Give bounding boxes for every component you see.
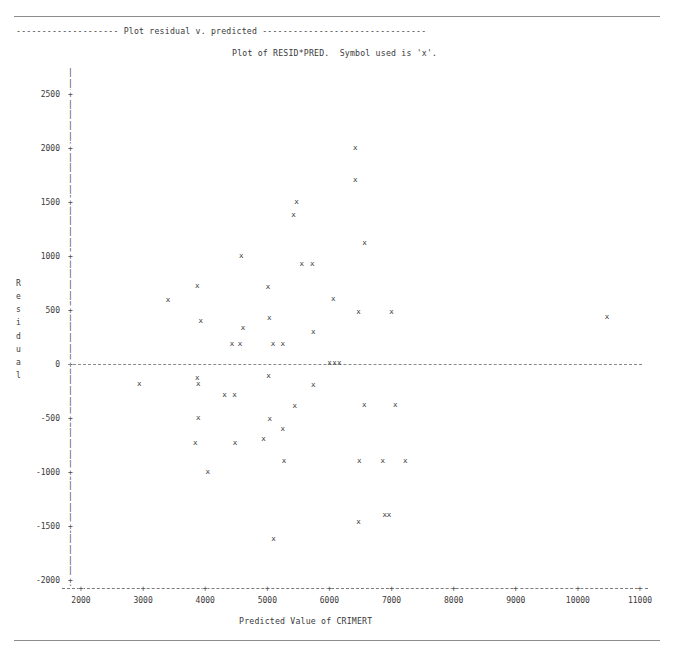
data-point-marker: x xyxy=(389,308,394,316)
y-axis-spine-segment: | xyxy=(68,99,73,108)
data-point-marker: x xyxy=(605,314,610,322)
x-tick-mark: + xyxy=(451,584,456,593)
x-tick-mark: + xyxy=(389,584,394,593)
y-axis-title-letter: u xyxy=(16,344,21,353)
y-tick-mark: + xyxy=(68,143,73,152)
data-point-marker: x xyxy=(137,381,142,389)
data-point-marker: x xyxy=(266,283,271,291)
x-tick-mark: + xyxy=(638,584,643,593)
x-tick-label: 11000 xyxy=(628,596,652,605)
x-tick-label: 10000 xyxy=(566,596,590,605)
data-point-marker: x xyxy=(241,324,246,332)
data-point-marker: x xyxy=(294,198,299,206)
y-axis-spine-segment: | xyxy=(68,481,73,490)
y-tick-label: 2000 xyxy=(14,143,60,152)
data-point-marker: x xyxy=(195,282,200,290)
x-tick-mark: + xyxy=(141,584,146,593)
y-axis-spine-segment: | xyxy=(68,333,73,342)
data-point-marker: x xyxy=(310,261,315,269)
x-tick-label: 9000 xyxy=(506,596,525,605)
data-point-marker: x xyxy=(300,261,305,269)
data-point-marker: x xyxy=(166,296,171,304)
y-axis-title-letter: s xyxy=(16,305,21,314)
data-point-marker: x xyxy=(291,211,296,219)
data-point-marker: x xyxy=(271,535,276,543)
data-point-marker: x xyxy=(233,439,238,447)
y-tick-mark: + xyxy=(68,521,73,530)
data-point-marker: x xyxy=(222,391,227,399)
x-axis-rule xyxy=(62,588,648,589)
y-axis-spine-segment: | xyxy=(68,216,73,225)
data-point-marker: x xyxy=(403,457,408,465)
data-point-marker: x xyxy=(232,391,237,399)
y-axis-spine-segment: | xyxy=(68,110,73,119)
x-tick-label: 5000 xyxy=(258,596,277,605)
data-point-marker: x xyxy=(393,401,398,409)
data-point-marker: x xyxy=(281,341,286,349)
y-tick-mark: + xyxy=(68,305,73,314)
data-point-marker: x xyxy=(261,436,266,444)
x-tick-label: 7000 xyxy=(382,596,401,605)
data-point-marker: x xyxy=(230,341,235,349)
y-axis-title-letter: i xyxy=(16,318,21,327)
data-point-marker: x xyxy=(281,425,286,433)
data-point-marker: x xyxy=(327,359,332,367)
data-point-marker: x xyxy=(266,372,271,380)
data-point-marker: x xyxy=(267,315,272,323)
y-axis-spine-segment: | xyxy=(68,502,73,511)
y-tick-mark: + xyxy=(68,576,73,585)
y-axis-spine-segment: | xyxy=(68,184,73,193)
y-tick-label: -1000 xyxy=(14,467,60,476)
x-tick-label: 2000 xyxy=(71,596,90,605)
y-tick-mark: + xyxy=(68,251,73,260)
y-tick-label: -500 xyxy=(14,413,60,422)
zero-reference-line xyxy=(68,364,642,365)
data-point-marker: x xyxy=(362,401,367,409)
y-tick-label: -1500 xyxy=(14,521,60,530)
y-axis-spine-segment: | xyxy=(68,205,73,214)
data-point-marker: x xyxy=(238,341,243,349)
y-axis-spine-segment: | xyxy=(68,68,73,77)
y-axis-spine-segment: | xyxy=(68,78,73,87)
x-tick-mark: + xyxy=(265,584,270,593)
y-axis-spine-segment: | xyxy=(68,121,73,130)
y-axis-spine-segment: | xyxy=(68,545,73,554)
data-point-marker: x xyxy=(193,439,198,447)
data-point-marker: x xyxy=(311,329,316,337)
data-point-marker: x xyxy=(332,359,337,367)
x-tick-mark: + xyxy=(203,584,208,593)
y-axis-title-letter: d xyxy=(16,331,21,340)
x-tick-mark: + xyxy=(79,584,84,593)
data-point-marker: x xyxy=(205,468,210,476)
x-tick-label: 4000 xyxy=(196,596,215,605)
y-axis-spine-segment: | xyxy=(68,492,73,501)
y-axis-spine-segment: | xyxy=(68,174,73,183)
x-tick-label: 8000 xyxy=(444,596,463,605)
data-point-marker: x xyxy=(362,239,367,247)
y-axis-title-letter: a xyxy=(16,357,21,366)
y-axis-spine-segment: | xyxy=(68,555,73,564)
y-tick-mark: + xyxy=(68,467,73,476)
y-axis-spine-segment: | xyxy=(68,237,73,246)
data-point-marker: x xyxy=(387,511,392,519)
y-axis-spine-segment: | xyxy=(68,343,73,352)
x-tick-mark: + xyxy=(327,584,332,593)
y-axis-spine-segment: | xyxy=(68,375,73,384)
y-axis-title-letter: e xyxy=(16,291,21,300)
data-point-marker: x xyxy=(356,518,361,526)
y-tick-mark: + xyxy=(68,89,73,98)
data-point-marker: x xyxy=(268,415,273,423)
y-tick-label: 2500 xyxy=(14,89,60,98)
y-axis-spine-segment: | xyxy=(68,152,73,161)
y-axis-spine-segment: | xyxy=(68,534,73,543)
y-axis-spine-segment: | xyxy=(68,163,73,172)
data-point-marker: x xyxy=(353,176,358,184)
y-axis-spine-segment: | xyxy=(68,131,73,140)
y-axis-spine-segment: | xyxy=(68,396,73,405)
y-axis-spine-segment: | xyxy=(68,227,73,236)
y-axis-spine-segment: | xyxy=(68,439,73,448)
data-point-marker: x xyxy=(271,341,276,349)
y-tick-label: 1500 xyxy=(14,197,60,206)
y-axis-title-letter: R xyxy=(16,278,21,287)
y-axis-spine-segment: | xyxy=(68,269,73,278)
